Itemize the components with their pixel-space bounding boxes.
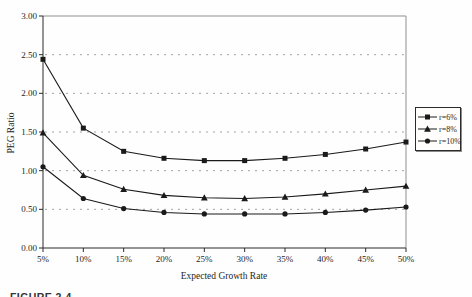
y-tick-label: 2.50	[21, 50, 37, 60]
x-tick-label: 20%	[156, 254, 173, 264]
y-tick-label: 1.00	[21, 166, 37, 176]
legend: r=6%r=8%r=10%	[415, 107, 461, 151]
x-tick-label: 30%	[236, 254, 253, 264]
y-tick-label: 1.50	[21, 127, 37, 137]
data-point-square	[323, 152, 328, 157]
x-tick-label: 50%	[398, 254, 415, 264]
legend-label: r=6%	[439, 113, 457, 122]
legend-entry: r=8%	[418, 123, 458, 135]
x-tick-label: 40%	[317, 254, 334, 264]
x-tick-label: 5%	[37, 254, 50, 264]
data-point-square	[202, 158, 207, 163]
x-tick-label: 35%	[277, 254, 294, 264]
legend-entry: r=6%	[418, 111, 458, 123]
legend-label: r=10%	[439, 137, 461, 146]
data-point-square	[121, 149, 126, 154]
circle-marker-icon	[418, 136, 437, 146]
data-point-circle	[40, 164, 45, 169]
data-point-circle	[242, 211, 247, 216]
data-point-triangle	[403, 183, 410, 189]
series-line-r=6%	[43, 59, 406, 160]
y-tick-label: 0.50	[21, 204, 37, 214]
data-point-circle	[363, 208, 368, 213]
data-point-circle	[161, 210, 166, 215]
y-axis-title: PEG Ratio	[6, 113, 16, 154]
figure-caption: FIGURE 2-4	[10, 291, 72, 297]
plot-area: 0.000.501.001.502.002.503.005%10%15%20%2…	[0, 0, 472, 297]
y-tick-label: 2.00	[21, 88, 37, 98]
y-tick-label: 3.00	[21, 11, 37, 21]
x-tick-label: 15%	[115, 254, 132, 264]
data-point-circle	[282, 211, 287, 216]
triangle-marker-icon	[418, 124, 437, 134]
x-tick-label: 10%	[75, 254, 92, 264]
data-point-square	[41, 57, 46, 62]
data-point-square	[162, 156, 167, 161]
x-tick-label: 25%	[196, 254, 213, 264]
data-point-circle	[403, 204, 408, 209]
data-point-circle	[81, 196, 86, 201]
x-axis-title: Expected Growth Rate	[181, 271, 268, 281]
x-tick-label: 45%	[357, 254, 374, 264]
square-marker-icon	[418, 112, 437, 122]
data-point-square	[283, 156, 288, 161]
y-tick-label: 0.00	[21, 243, 37, 253]
data-point-square	[242, 158, 247, 163]
data-point-circle	[202, 211, 207, 216]
data-point-circle	[323, 210, 328, 215]
series-line-r=8%	[43, 133, 406, 199]
data-point-square	[404, 140, 409, 145]
chart-figure: 0.000.501.001.502.002.503.005%10%15%20%2…	[0, 0, 472, 297]
data-point-square	[81, 126, 86, 131]
legend-entry: r=10%	[418, 135, 458, 147]
series-line-r=10%	[43, 167, 406, 214]
data-point-circle	[121, 206, 126, 211]
data-point-square	[363, 147, 368, 152]
legend-label: r=8%	[439, 125, 457, 134]
